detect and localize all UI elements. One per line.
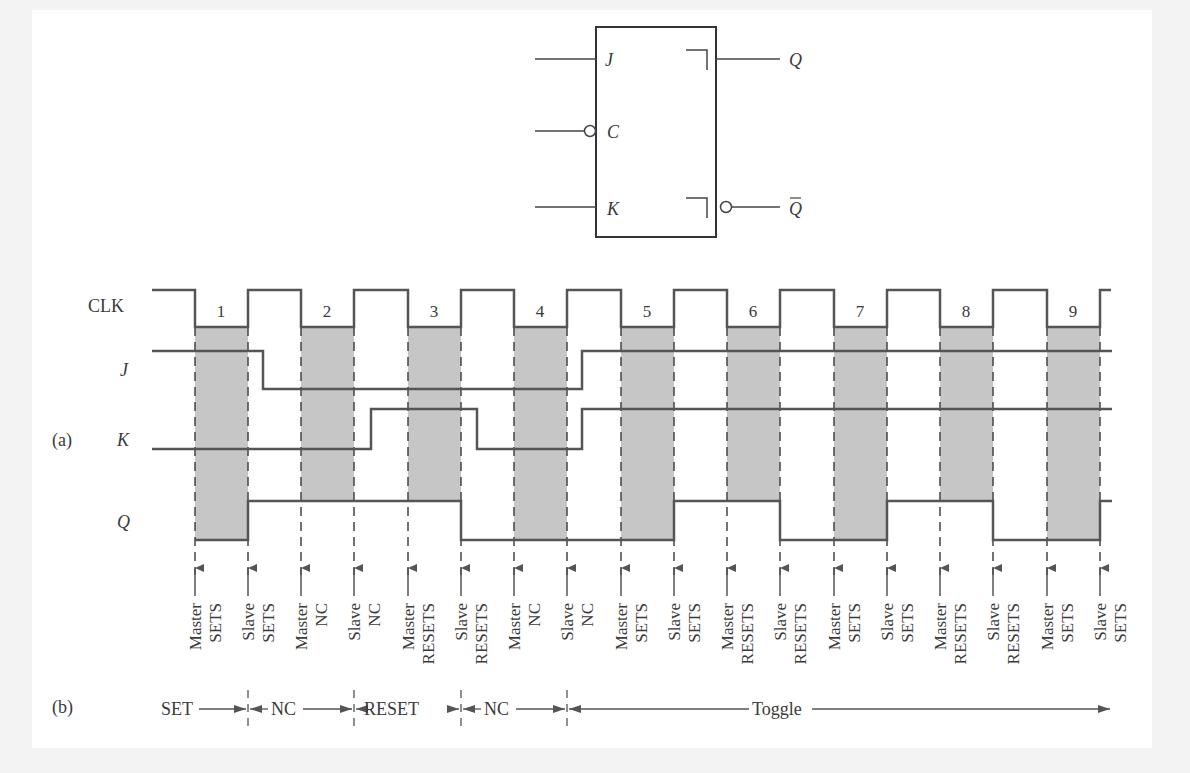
event-action: RESETS: [419, 603, 438, 664]
event-stage: Master: [825, 603, 844, 651]
edge-event-labels: MasterSETS SlaveSETS MasterNC SlaveNC Ma…: [186, 603, 1130, 665]
event-action: SETS: [898, 603, 917, 643]
period-number: 5: [643, 302, 652, 321]
event-stage: Slave: [665, 603, 684, 641]
part-a-label: (a): [52, 430, 72, 451]
event-action: RESETS: [472, 603, 491, 664]
period-number: 2: [323, 302, 332, 321]
event-action: NC: [312, 603, 331, 627]
mode-label-toggle: Toggle: [752, 699, 802, 719]
jk-flipflop-symbol: J C K Q Q: [535, 27, 802, 237]
event-action: SETS: [845, 603, 864, 643]
event-action: SETS: [1058, 603, 1077, 643]
qbar-invert-bubble: [721, 202, 732, 213]
period-number: 1: [217, 302, 226, 321]
period-number: 9: [1069, 302, 1078, 321]
k-pin-label: K: [606, 199, 620, 219]
event-action: SETS: [632, 603, 651, 643]
mode-label-nc: NC: [271, 699, 296, 719]
j-signal-label: J: [120, 360, 129, 380]
clock-invert-bubble: [585, 126, 596, 137]
event-stage: Slave: [984, 603, 1003, 641]
event-stage: Slave: [1091, 603, 1110, 641]
event-action: NC: [365, 603, 384, 627]
event-stage: Slave: [239, 603, 258, 641]
k-signal-label: K: [116, 430, 130, 450]
event-action: NC: [578, 603, 597, 627]
event-stage: Master: [718, 603, 737, 651]
event-stage: Slave: [771, 603, 790, 641]
period-number: 6: [749, 302, 758, 321]
event-stage: Master: [931, 603, 950, 651]
period-number: 4: [536, 302, 545, 321]
period-number: 3: [430, 302, 439, 321]
edge-arrows: [195, 568, 1100, 596]
event-action: RESETS: [791, 603, 810, 664]
c-pin-label: C: [607, 122, 620, 142]
event-stage: Slave: [345, 603, 364, 641]
mode-label-set: SET: [161, 699, 193, 719]
event-action: RESETS: [951, 603, 970, 664]
event-stage: Master: [612, 603, 631, 651]
clock-period-numbers: 1 2 3 4 5 6 7 8 9: [217, 302, 1078, 321]
event-stage: Master: [399, 603, 418, 651]
period-number: 7: [856, 302, 865, 321]
event-action: SETS: [1111, 603, 1130, 643]
mode-label-nc: NC: [484, 699, 509, 719]
event-stage: Master: [505, 603, 524, 651]
event-stage: Slave: [558, 603, 577, 641]
event-stage: Master: [186, 603, 205, 651]
event-stage: Slave: [878, 603, 897, 641]
event-action: RESETS: [738, 603, 757, 664]
j-pin-label: J: [605, 50, 614, 70]
event-stage: Master: [292, 603, 311, 651]
event-action: SETS: [259, 603, 278, 643]
q-signal-label: Q: [117, 512, 130, 532]
event-stage: Slave: [452, 603, 471, 641]
event-action: SETS: [685, 603, 704, 643]
qbar-output-label: Q: [789, 199, 802, 219]
part-b-label: (b): [52, 697, 73, 718]
master-active-shading: [195, 327, 1100, 540]
event-stage: Master: [1038, 603, 1057, 651]
timing-diagram: J C K Q Q: [0, 0, 1190, 773]
clk-signal-label: CLK: [88, 296, 124, 316]
mode-label-reset: RESET: [364, 699, 419, 719]
event-action: SETS: [206, 603, 225, 643]
event-action: RESETS: [1004, 603, 1023, 664]
period-number: 8: [962, 302, 971, 321]
event-action: NC: [525, 603, 544, 627]
q-output-label: Q: [789, 50, 802, 70]
